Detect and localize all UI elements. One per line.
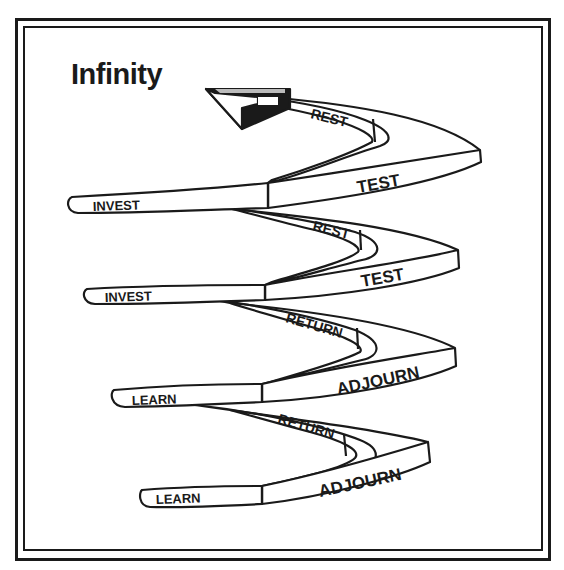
spiral-diagram: REST TEST INVEST REST TEST INVEST RETURN… bbox=[0, 0, 564, 570]
label-learn-1: LEARN bbox=[132, 391, 177, 408]
spiral-turn-3 bbox=[112, 298, 456, 407]
label-rest-2: REST bbox=[311, 217, 352, 242]
label-return-2: RETURN bbox=[276, 411, 336, 442]
label-rest-1: REST bbox=[309, 105, 350, 130]
arrow-head-icon bbox=[206, 89, 290, 129]
label-invest-2: INVEST bbox=[105, 288, 153, 305]
label-invest-1: INVEST bbox=[93, 197, 141, 214]
label-learn-2: LEARN bbox=[156, 490, 201, 507]
